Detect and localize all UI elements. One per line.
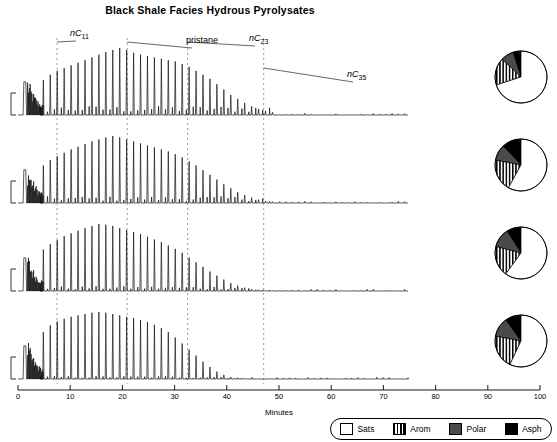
annotation-nC35: nC35 xyxy=(347,69,366,81)
chromatogram-plot xyxy=(0,0,557,442)
annotation-nC11: nC11 xyxy=(70,28,89,40)
x-tick-0: 0 xyxy=(4,392,32,401)
legend-swatch-polar-icon xyxy=(449,423,462,435)
x-tick-70: 70 xyxy=(369,392,397,401)
legend-label-arom: Arom xyxy=(410,424,430,434)
x-tick-50: 50 xyxy=(265,392,293,401)
trace-330C xyxy=(11,136,408,203)
x-tick-10: 10 xyxy=(56,392,84,401)
x-axis xyxy=(18,385,540,390)
pie-chart-300C xyxy=(495,51,547,103)
pie-chart-360C xyxy=(495,315,547,367)
legend-item-arom: Arom xyxy=(393,423,430,435)
x-tick-60: 60 xyxy=(317,392,345,401)
x-tick-100: 100 xyxy=(526,392,554,401)
legend: SatsAromPolarAsph xyxy=(330,418,552,440)
figure: Black Shale Facies Hydrous Pyrolysates n… xyxy=(0,0,557,442)
legend-label-polar: Polar xyxy=(466,424,486,434)
x-tick-90: 90 xyxy=(474,392,502,401)
annotation-nC23: nC23 xyxy=(249,33,268,45)
legend-item-polar: Polar xyxy=(449,423,486,435)
annotation-pristane: pristane xyxy=(186,35,218,45)
legend-swatch-asph-icon xyxy=(505,423,518,435)
pie-chart-330C xyxy=(495,139,547,191)
x-axis-title: Minutes xyxy=(69,408,489,417)
x-tick-80: 80 xyxy=(422,392,450,401)
legend-swatch-sats-icon xyxy=(340,423,353,435)
x-tick-20: 20 xyxy=(108,392,136,401)
legend-label-sats: Sats xyxy=(357,424,374,434)
trace-345C xyxy=(11,224,408,291)
trace-360C xyxy=(11,312,408,379)
legend-item-asph: Asph xyxy=(505,423,541,435)
x-tick-30: 30 xyxy=(161,392,189,401)
pie-chart-345C xyxy=(495,227,547,279)
legend-item-sats: Sats xyxy=(340,423,374,435)
legend-label-asph: Asph xyxy=(522,424,541,434)
x-tick-40: 40 xyxy=(213,392,241,401)
legend-swatch-arom-icon xyxy=(393,423,406,435)
